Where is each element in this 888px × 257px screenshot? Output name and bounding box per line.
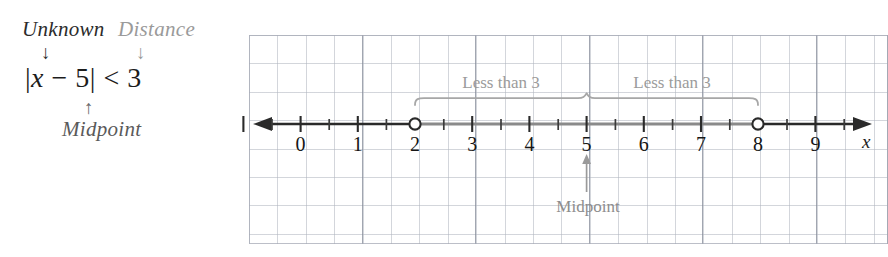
open-circle-8 [752, 118, 763, 129]
brace-label-left: Less than 3 [421, 73, 581, 93]
tick-label-1: 1 [343, 133, 373, 156]
tick-label-7: 7 [686, 133, 716, 156]
tick-label-8: 8 [743, 133, 773, 156]
brace-label-right: Less than 3 [592, 73, 752, 93]
tick-label-9: 9 [800, 133, 830, 156]
tick-label-5: 5 [572, 133, 602, 156]
tick-label-6: 6 [629, 133, 659, 156]
tick-label-4: 4 [514, 133, 544, 156]
tick-label-0: 0 [286, 133, 316, 156]
midpoint-label-graph: Midpoint [508, 197, 668, 217]
axis-arrow-left [253, 117, 272, 131]
tick-label-3: 3 [457, 133, 487, 156]
axis-label-x: x [862, 131, 870, 153]
axis-arrow-right [853, 117, 872, 131]
tick-label-2: 2 [400, 133, 430, 156]
midpoint-arrow [582, 154, 591, 192]
open-circle-2 [409, 118, 420, 129]
